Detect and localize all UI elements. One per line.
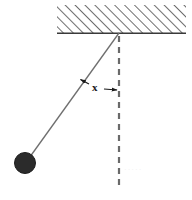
ceiling-hatch-group [57,5,186,33]
pendulum-string [27,33,119,161]
pendulum-diagram-svg [0,0,192,200]
ceiling-hatch-fill [57,5,186,33]
angle-label-x: x [92,82,98,93]
angle-arrow-right-head [104,89,117,90]
faint-watermark: ····· [124,166,142,174]
pendulum-diagram-canvas: x ····· [0,0,192,200]
